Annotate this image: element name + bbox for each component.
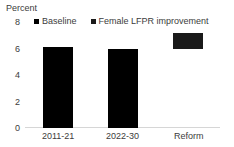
y-axis-ticks: 8 6 4 2 0 [4,22,20,128]
x-tick-label: 2022-30 [106,131,139,142]
bar-2011-21[interactable] [43,47,73,128]
plot-area [25,22,220,128]
y-tick-label: 6 [6,44,20,53]
y-tick-label: 2 [6,97,20,106]
bar-chart: Percent Baseline Female LFPR improvement… [0,0,234,147]
y-tick-label: 8 [6,18,20,27]
bar-reform[interactable] [173,33,203,49]
bar-2022-30[interactable] [108,49,138,129]
x-axis-ticks: 2011-21 2022-30 Reform [25,131,220,145]
x-tick-label: Reform [174,131,204,142]
y-tick-label: 0 [6,124,20,133]
y-tick-label: 4 [6,71,20,80]
x-tick-label: 2011-21 [42,131,74,142]
y-axis-title: Percent [6,3,37,14]
